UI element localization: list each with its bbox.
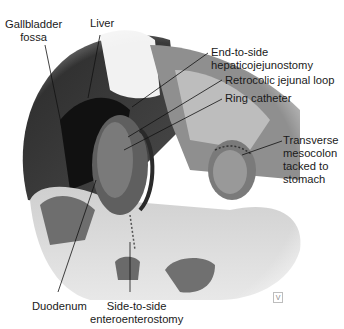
label-end-to-side-hepaticojejunostomy: End-to-sidehepaticojejunostomy xyxy=(211,46,313,72)
corner-mark: V xyxy=(273,292,283,303)
label-side-to-side-enteroenterostomy: Side-to-sideenteroenterostomy xyxy=(90,300,183,326)
label-ring-catheter: Ring catheter xyxy=(225,92,292,105)
label-transverse-mesocolon: Transversemesocolontacked tostomach xyxy=(283,134,339,186)
label-gallbladder-fossa: Gallbladderfossa xyxy=(5,18,62,44)
label-retrocolic-jejunal-loop: Retrocolic jejunal loop xyxy=(225,74,334,87)
label-duodenum: Duodenum xyxy=(32,300,87,313)
label-liver: Liver xyxy=(90,17,114,30)
